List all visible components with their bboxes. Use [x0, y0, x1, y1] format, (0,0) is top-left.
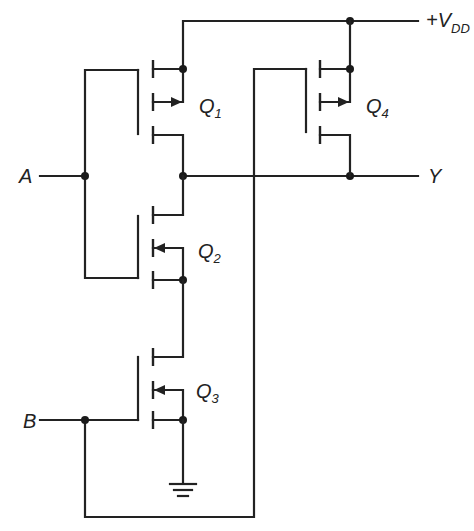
q2-label: Q2 — [198, 240, 222, 266]
vdd-rail — [183, 17, 418, 66]
transistor-q1 — [138, 60, 187, 176]
arrow-in-icon — [154, 243, 165, 253]
input-a-net — [40, 70, 138, 278]
q3-label: Q3 — [196, 380, 220, 406]
output-y-net — [179, 172, 418, 180]
arrow-out-icon — [171, 97, 182, 107]
transistor-q2 — [138, 176, 187, 289]
output-y-label: Y — [428, 165, 443, 187]
ground-icon — [170, 420, 196, 496]
arrow-in-icon — [154, 385, 165, 395]
input-b-net — [40, 69, 306, 517]
transistor-q4 — [306, 21, 354, 176]
transistor-q3 — [138, 280, 187, 429]
q4-label: Q4 — [366, 95, 389, 121]
circuit-diagram: +VDD Q1 A Y Q2 — [0, 0, 474, 531]
vdd-label: +VDD — [426, 9, 470, 36]
input-b-label: B — [23, 410, 36, 432]
arrow-out-icon — [338, 97, 349, 107]
input-a-label: A — [18, 165, 32, 187]
q1-label: Q1 — [199, 95, 222, 121]
